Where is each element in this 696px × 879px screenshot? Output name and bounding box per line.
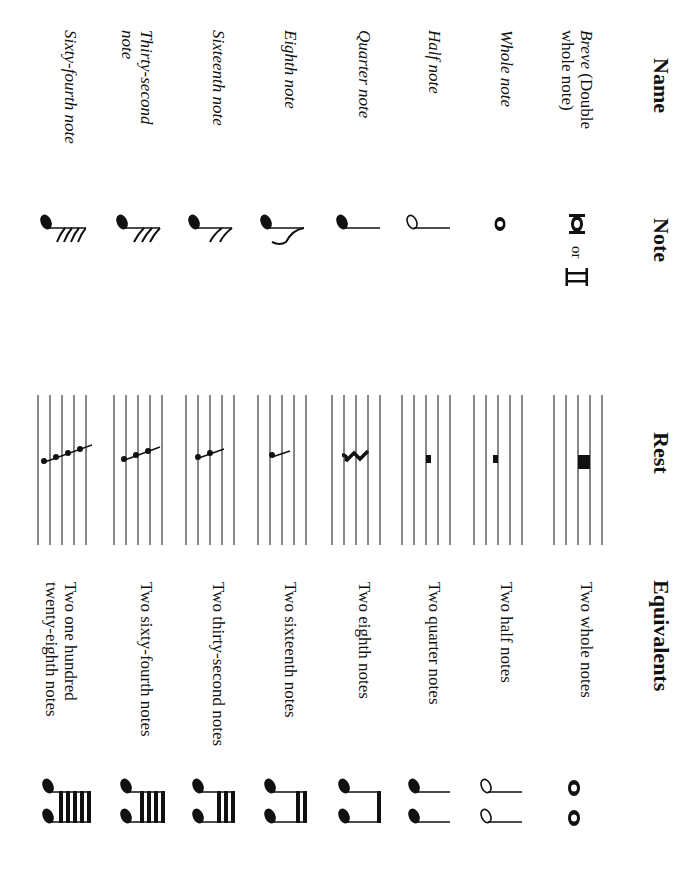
quarter-note-icon [320,190,380,330]
breve-note-icon: or [542,190,602,330]
eighth-note-icon [246,190,306,330]
equivalent-text: Two thirty-second notes [209,582,228,752]
whole-note-icon [462,190,522,330]
table-row-sixty-fourth: Sixty-fourth note Two one hundred twenty… [10,0,80,879]
table-row-quarter: Quarter note Two eighth notes [304,0,374,879]
equivalent-text: Two one hundred twenty-eighth notes [42,582,80,752]
two-sixteenth-notes-icon [248,770,312,870]
sixty-fourth-note-icon [26,190,86,330]
table-row-whole: Whole note Two half notes [446,0,516,879]
half-rest-icon [392,395,456,555]
header-name: Name [648,58,674,113]
row-name: Thirty-second note [118,30,156,150]
row-name: Quarter note [355,30,374,150]
sixty-fourth-rest-icon [28,395,92,555]
two-half-notes-icon [464,770,528,870]
equivalent-text: Two eighth notes [355,582,374,752]
breve-rest-icon [544,395,608,555]
header-equivalents: Equivalents [648,580,674,691]
row-name: Sixteenth note [209,30,228,150]
two-eighth-notes-icon [322,770,386,870]
sixteenth-rest-icon [176,395,240,555]
row-name: Sixty-fourth note [61,30,80,150]
half-note-icon [390,190,450,330]
equivalent-text: Two whole notes [577,582,596,752]
table-row-sixteenth: Sixteenth note Two thirty-second notes [158,0,228,879]
equivalent-text: Two sixteenth notes [281,582,300,752]
row-name: Eighth note [281,30,300,150]
equivalent-text: Two half notes [497,582,516,752]
table-row-eighth: Eighth note Two sixteenth notes [230,0,300,879]
quarter-rest-icon [322,395,386,555]
equivalent-text: Two sixty-fourth notes [137,582,156,752]
whole-rest-icon [464,395,528,555]
thirty-second-note-icon [102,190,162,330]
two-thirty-second-notes-icon [176,770,240,870]
header-rest: Rest [648,432,674,474]
two-whole-notes-icon [544,770,608,870]
two-sixty-fourth-notes-icon [104,770,168,870]
header-note: Note [648,218,674,262]
table-row-thirty-second: Thirty-second note Two sixty-fourth note… [86,0,156,879]
table-row-breve: Breve (Double whole note) or Two whole n… [526,0,596,879]
eighth-rest-icon [248,395,312,555]
row-name: Half note [425,30,444,150]
two-quarter-notes-icon [392,770,456,870]
thirty-second-rest-icon [104,395,168,555]
svg-text:or: or [569,246,585,259]
sixteenth-note-icon [174,190,234,330]
two-128th-notes-icon [28,770,92,870]
row-name: Whole note [497,30,516,150]
note-values-table: Name Note Rest Equivalents Breve (Double… [0,0,696,879]
row-name: Breve (Double whole note) [558,30,596,150]
equivalent-text: Two quarter notes [425,582,444,752]
